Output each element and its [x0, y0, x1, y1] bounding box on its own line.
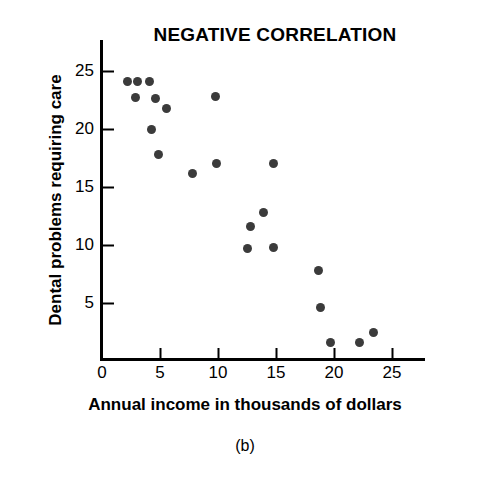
y-tick-label: 5 [60, 294, 94, 311]
data-point [369, 328, 378, 337]
y-tick-label: 25 [60, 62, 94, 79]
data-point [145, 77, 154, 86]
data-point [243, 244, 252, 253]
x-tick-label: 15 [259, 364, 293, 381]
data-point [326, 338, 335, 347]
x-tick-label: 25 [375, 364, 409, 381]
y-tick-label: 15 [60, 178, 94, 195]
x-tick-label: 20 [317, 364, 351, 381]
data-point [316, 303, 325, 312]
plot-area: 510152025 0510152025 [0, 0, 490, 479]
x-tick-label: 0 [85, 364, 119, 381]
data-point [147, 125, 156, 134]
data-point [355, 338, 364, 347]
data-point [259, 208, 268, 217]
data-point [246, 222, 255, 231]
scatter-plot-figure: NEGATIVE CORRELATION Dental problems req… [0, 0, 490, 479]
data-point [123, 77, 132, 86]
x-tick-label: 5 [143, 364, 177, 381]
data-point [269, 243, 278, 252]
data-point [188, 169, 197, 178]
x-tick-label: 10 [201, 364, 235, 381]
y-tick-label: 20 [60, 120, 94, 137]
y-tick-label: 10 [60, 236, 94, 253]
